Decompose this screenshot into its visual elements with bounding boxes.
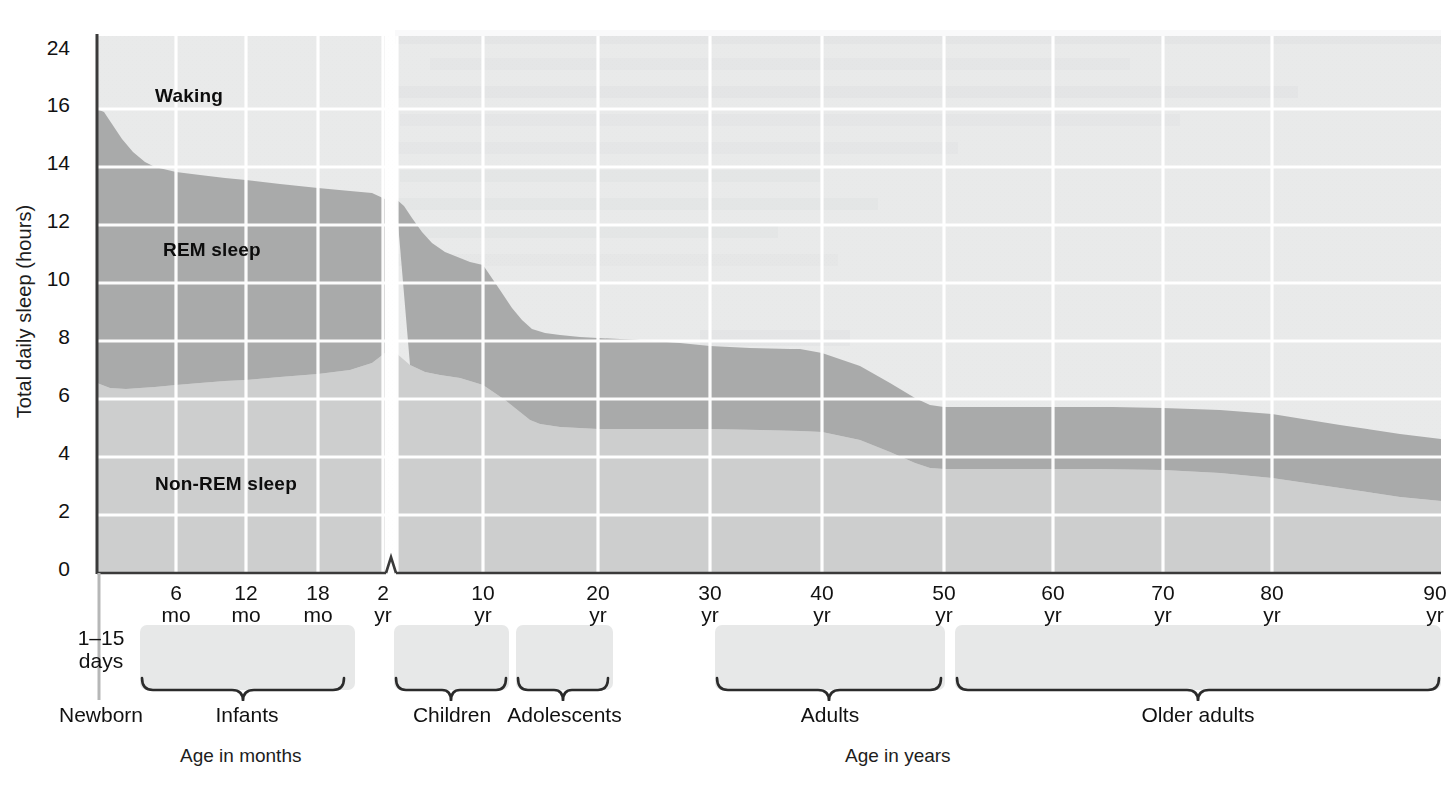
- x-tick-18mo-unit: mo: [283, 604, 353, 626]
- x-tick-2yr-unit: yr: [348, 604, 418, 626]
- y-tick-8: 8: [28, 325, 70, 349]
- x-tick-10yr-unit: yr: [448, 604, 518, 626]
- y-tick-2: 2: [28, 499, 70, 523]
- x-tick-20yr: 20 yr: [563, 582, 633, 626]
- y-tick-14: 14: [28, 151, 70, 175]
- x-tick-60yr-unit: yr: [1018, 604, 1088, 626]
- x-tick-18mo: 18 mo: [283, 582, 353, 626]
- y-tick-0: 0: [28, 557, 70, 581]
- x-tick-50yr-unit: yr: [909, 604, 979, 626]
- newborn-range: 1–15 days: [56, 627, 146, 672]
- x-tick-6mo: 6 mo: [141, 582, 211, 626]
- x-tick-6mo-num: 6: [170, 581, 182, 604]
- x-tick-30yr: 30 yr: [675, 582, 745, 626]
- x-tick-30yr-num: 30: [698, 581, 721, 604]
- x-tick-50yr-num: 50: [932, 581, 955, 604]
- x-tick-90yr-unit: yr: [1400, 604, 1452, 626]
- x-tick-80yr-num: 80: [1260, 581, 1283, 604]
- x-tick-12mo-unit: mo: [211, 604, 281, 626]
- group-label-adults: Adults: [770, 703, 890, 727]
- series-label-rem: REM sleep: [163, 239, 261, 261]
- y-tick-10: 10: [28, 267, 70, 291]
- group-label-infants: Infants: [187, 703, 307, 727]
- x-tick-2yr-num: 2: [377, 581, 389, 604]
- x-tick-60yr: 60 yr: [1018, 582, 1088, 626]
- x-tick-90yr-num: 90: [1423, 581, 1446, 604]
- newborn-range-unit: days: [79, 649, 123, 672]
- y-tick-12: 12: [28, 209, 70, 233]
- x-tick-80yr: 80 yr: [1237, 582, 1307, 626]
- x-tick-12mo: 12 mo: [211, 582, 281, 626]
- x-tick-40yr-unit: yr: [787, 604, 857, 626]
- x-tick-40yr-num: 40: [810, 581, 833, 604]
- x-tick-2yr: 2 yr: [348, 582, 418, 626]
- group-label-adolescents: Adolescents: [487, 703, 642, 727]
- x-tick-70yr-unit: yr: [1128, 604, 1198, 626]
- y-tick-6: 6: [28, 383, 70, 407]
- x-tick-10yr: 10 yr: [448, 582, 518, 626]
- newborn-range-value: 1–15: [78, 626, 125, 649]
- x-tick-20yr-unit: yr: [563, 604, 633, 626]
- x-tick-18mo-num: 18: [306, 581, 329, 604]
- x-tick-90yr: 90 yr: [1400, 582, 1452, 626]
- x-tick-20yr-num: 20: [586, 581, 609, 604]
- x-tick-60yr-num: 60: [1041, 581, 1064, 604]
- x-tick-70yr-num: 70: [1151, 581, 1174, 604]
- x-tick-80yr-unit: yr: [1237, 604, 1307, 626]
- x-tick-10yr-num: 10: [471, 581, 494, 604]
- figure-root: Total daily sleep (hours) 24 16 14 12 10…: [0, 0, 1452, 787]
- x-tick-12mo-num: 12: [234, 581, 257, 604]
- group-label-newborn: Newborn: [56, 703, 146, 727]
- x-tick-50yr: 50 yr: [909, 582, 979, 626]
- sleep-area-chart: [0, 0, 1452, 787]
- x-tick-6mo-unit: mo: [141, 604, 211, 626]
- age-group-bands: [140, 625, 1441, 690]
- x-axis-title-months: Age in months: [180, 745, 301, 767]
- series-label-nonrem: Non-REM sleep: [155, 473, 297, 495]
- y-tick-4: 4: [28, 441, 70, 465]
- chart-plot-area: Total daily sleep (hours) 24 16 14 12 10…: [0, 0, 1452, 787]
- x-axis-title-years: Age in years: [845, 745, 951, 767]
- x-tick-40yr: 40 yr: [787, 582, 857, 626]
- series-label-waking: Waking: [155, 85, 223, 107]
- x-tick-30yr-unit: yr: [675, 604, 745, 626]
- x-tick-70yr: 70 yr: [1128, 582, 1198, 626]
- group-label-older-adults: Older adults: [1118, 703, 1278, 727]
- y-tick-24: 24: [28, 36, 70, 60]
- y-tick-16: 16: [28, 93, 70, 117]
